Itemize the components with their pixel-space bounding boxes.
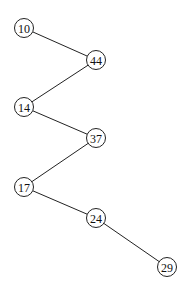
node-label: 17: [18, 181, 30, 195]
node-label: 29: [161, 261, 173, 275]
node-label: 24: [90, 212, 102, 226]
edge-44-14: [24, 60, 96, 107]
node-label: 37: [90, 132, 102, 146]
tree-diagram: 10 44 14 37 17 24 29: [0, 0, 188, 289]
node-label: 44: [90, 54, 102, 68]
node-37: 37: [87, 129, 106, 148]
edge-24-29: [96, 218, 167, 267]
edge-17-24: [24, 187, 96, 218]
node-14: 14: [15, 98, 34, 117]
node-17: 17: [15, 178, 34, 197]
edge-37-17: [24, 138, 96, 187]
node-10: 10: [15, 19, 34, 38]
edge-14-37: [24, 107, 96, 138]
node-24: 24: [87, 209, 106, 228]
node-44: 44: [87, 51, 106, 70]
nodes: 10 44 14 37 17 24 29: [15, 19, 177, 277]
node-29: 29: [158, 258, 177, 277]
node-label: 10: [18, 22, 30, 36]
node-label: 14: [18, 101, 30, 115]
edge-10-44: [24, 28, 96, 60]
